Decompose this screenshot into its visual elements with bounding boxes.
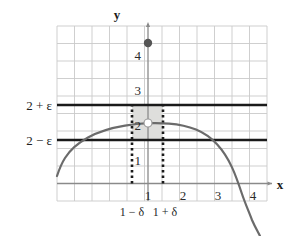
- right-delta-label: 1 + δ: [153, 205, 178, 219]
- y-axis-label: y: [114, 7, 121, 22]
- open-point: [144, 119, 152, 127]
- x-tick-3: 3: [215, 188, 222, 203]
- left-delta-label: 1 − δ: [120, 205, 145, 219]
- upper-epsilon-label: 2 + ε: [26, 98, 52, 113]
- x-tick-4: 4: [250, 188, 257, 203]
- filled-point: [144, 39, 152, 47]
- y-tick-1: 1: [135, 153, 142, 168]
- y-tick-2: 2: [135, 118, 142, 133]
- x-tick-2: 2: [180, 188, 187, 203]
- y-tick-3: 3: [135, 83, 142, 98]
- x-axis-label: x: [277, 177, 284, 192]
- limit-epsilon-delta-figure: y x 1 2 3 4 1 2 3 4 2 + ε 2 − ε 1 − δ 1 …: [0, 0, 304, 236]
- x-tick-1: 1: [145, 188, 152, 203]
- chart-canvas: y x 1 2 3 4 1 2 3 4 2 + ε 2 − ε 1 − δ 1 …: [0, 0, 304, 236]
- lower-epsilon-label: 2 − ε: [26, 133, 52, 148]
- y-tick-4: 4: [135, 48, 142, 63]
